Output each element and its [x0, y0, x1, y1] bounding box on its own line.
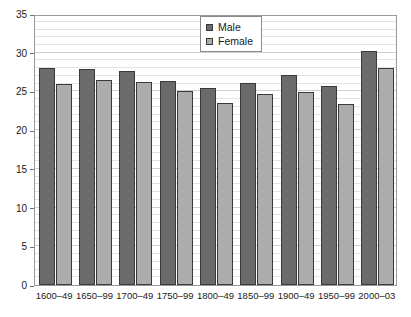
y-axis: 05101520253035: [0, 0, 34, 317]
x-axis-tick-label: 2000–03: [357, 290, 397, 302]
legend: MaleFemale: [200, 16, 262, 52]
legend-label-female: Female: [218, 36, 253, 47]
y-axis-tick-label: 0: [21, 281, 27, 291]
y-axis-tick-label: 30: [16, 49, 27, 59]
bar-male-1950–99: [321, 86, 337, 285]
x-axis-tick-label: 1700–49: [115, 290, 155, 302]
bars-layer: [35, 16, 396, 285]
y-axis-tick-label: 15: [16, 165, 27, 175]
bar-group: [281, 16, 314, 285]
bar-group: [160, 16, 193, 285]
x-axis-tick-label: 1750–99: [155, 290, 195, 302]
bar-group: [361, 16, 394, 285]
bar-male-1800–49: [200, 88, 216, 285]
x-axis-tick-label: 1600–49: [34, 290, 74, 302]
bar-female-1700–49: [136, 82, 152, 285]
bar-female-1600–49: [56, 84, 72, 285]
y-axis-tick-label: 20: [16, 126, 27, 136]
legend-label-male: Male: [218, 22, 241, 33]
bar-female-1800–49: [217, 103, 233, 285]
bar-male-1900–49: [281, 75, 297, 285]
bar-male-1850–99: [240, 83, 256, 285]
x-axis-tick-label: 1800–49: [195, 290, 235, 302]
bar-male-1650–99: [79, 69, 95, 285]
bar-female-1650–99: [96, 80, 112, 285]
bar-group: [200, 16, 233, 285]
legend-swatch-male: [206, 24, 213, 31]
bar-male-1750–99: [160, 81, 176, 285]
x-axis-tick-label: 1650–99: [74, 290, 114, 302]
bar-group: [79, 16, 112, 285]
bar-male-1600–49: [39, 68, 55, 285]
bar-female-2000–03: [378, 68, 394, 285]
bar-chart: 05101520253035 1600–491650–991700–491750…: [0, 0, 411, 317]
bar-group: [321, 16, 354, 285]
bar-male-2000–03: [361, 51, 377, 285]
bar-group: [119, 16, 152, 285]
bar-male-1700–49: [119, 71, 135, 285]
plot-area: [34, 15, 397, 286]
bar-group: [39, 16, 72, 285]
x-axis-tick-label: 1850–99: [236, 290, 276, 302]
y-axis-tick-label: 5: [21, 242, 27, 252]
y-axis-tick-label: 35: [16, 10, 27, 20]
bar-female-1950–99: [338, 104, 354, 285]
bar-female-1900–49: [298, 92, 314, 285]
legend-entry-male: Male: [206, 20, 253, 34]
bar-group: [240, 16, 273, 285]
y-axis-tick-label: 10: [16, 204, 27, 214]
bar-female-1850–99: [257, 94, 273, 285]
bar-female-1750–99: [177, 91, 193, 285]
x-axis: 1600–491650–991700–491750–991800–491850–…: [34, 290, 397, 310]
x-axis-tick-label: 1900–49: [276, 290, 316, 302]
x-axis-tick-label: 1950–99: [316, 290, 356, 302]
legend-swatch-female: [206, 38, 213, 45]
y-axis-tick-label: 25: [16, 87, 27, 97]
legend-entry-female: Female: [206, 34, 253, 48]
